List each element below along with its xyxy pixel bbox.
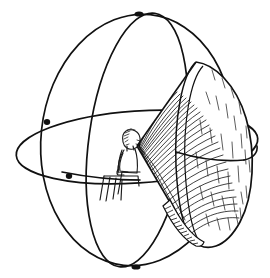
figure-root: Observer inside sphere with projected vi…: [0, 0, 270, 278]
south-pole-node: [132, 264, 141, 269]
north-pole-node: [135, 11, 144, 16]
illustration-canvas: [0, 0, 270, 278]
left-equator-node: [44, 119, 50, 125]
